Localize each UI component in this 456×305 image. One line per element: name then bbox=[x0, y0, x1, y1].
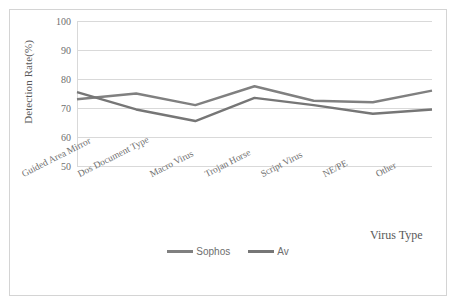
legend-item-av[interactable]: Av bbox=[248, 246, 289, 257]
y-tick-60: 60 bbox=[61, 132, 71, 143]
legend-label-av: Av bbox=[277, 246, 289, 257]
y-tick-50: 50 bbox=[61, 161, 71, 172]
y-tick-90: 90 bbox=[61, 45, 71, 56]
series-line-sophos bbox=[77, 86, 432, 105]
chart-figure: Detection Rate(%) 100 90 80 70 60 50 Gui… bbox=[0, 0, 456, 305]
legend-swatch-av bbox=[248, 250, 274, 253]
y-tick-70: 70 bbox=[61, 103, 71, 114]
legend-item-sophos[interactable]: Sophos bbox=[167, 246, 230, 257]
y-tick-100: 100 bbox=[56, 16, 71, 27]
y-tick-80: 80 bbox=[61, 74, 71, 85]
y-axis-label: Detection Rate(%) bbox=[22, 0, 34, 40]
series-line-av bbox=[77, 92, 432, 121]
legend-label-sophos: Sophos bbox=[196, 246, 230, 257]
x-axis-label: Virus Type bbox=[370, 228, 423, 243]
chart-legend: Sophos Av bbox=[0, 246, 456, 257]
legend-swatch-sophos bbox=[167, 250, 193, 253]
y-axis-label-text: Detection Rate(%) bbox=[22, 40, 34, 124]
